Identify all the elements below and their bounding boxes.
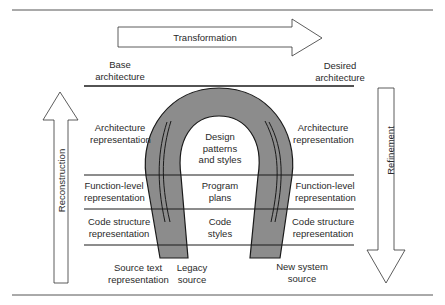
refinement-label: Refinement	[385, 111, 396, 191]
right-code-structure-label: Code structure representation	[292, 216, 354, 239]
base-architecture-label: Base architecture	[85, 59, 155, 82]
legacy-source-label: Legacy source	[172, 262, 212, 285]
code-styles-label: Code styles	[192, 216, 248, 239]
left-architecture-representation-label: Architecture representation	[90, 122, 150, 145]
left-function-level-label: Function-level representation	[84, 180, 144, 203]
source-text-label: Source text representation	[108, 262, 168, 285]
program-plans-label: Program plans	[192, 180, 248, 203]
right-architecture-representation-label: Architecture representation	[293, 122, 353, 145]
transformation-label: Transformation	[118, 32, 292, 44]
design-patterns-label: Design patterns and styles	[190, 131, 250, 166]
left-code-structure-label: Code structure representation	[88, 216, 150, 239]
reconstruction-label: Reconstruction	[56, 141, 67, 221]
new-system-source-label: New system source	[272, 261, 332, 284]
right-function-level-label: Function-level representation	[295, 180, 355, 203]
desired-architecture-label: Desired architecture	[300, 60, 380, 83]
